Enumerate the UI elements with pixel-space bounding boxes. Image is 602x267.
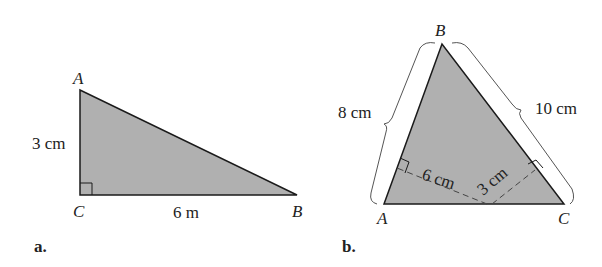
- triangle-a: [80, 90, 297, 195]
- vertex-c-label: C: [73, 202, 85, 221]
- vertex-a-label: A: [376, 209, 388, 228]
- vertex-c-label: C: [558, 209, 570, 228]
- side-cb-label: 6 m: [173, 203, 199, 222]
- side-bc-label: 10 cm: [535, 99, 577, 118]
- triangle-b: [384, 44, 564, 204]
- vertex-a-label: A: [72, 69, 84, 88]
- figure-a-sublabel: a.: [34, 237, 47, 256]
- vertex-b-label: B: [435, 21, 446, 40]
- figure-a: A C B 3 cm 6 m a.: [32, 69, 303, 256]
- diagram-canvas: A C B 3 cm 6 m a. B A C 8 cm 10 cm 6 cm …: [0, 0, 602, 267]
- vertex-b-label: B: [292, 202, 303, 221]
- side-ac-label: 3 cm: [32, 134, 66, 153]
- figure-b-sublabel: b.: [342, 237, 356, 256]
- figure-b: B A C 8 cm 10 cm 6 cm 3 cm b.: [338, 21, 577, 256]
- side-ab-label: 8 cm: [338, 103, 372, 122]
